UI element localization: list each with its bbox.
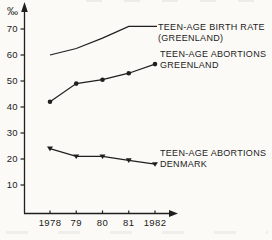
x-tick-label: 1982	[144, 217, 167, 228]
y-tick-label: 20	[7, 153, 18, 164]
series-label-line: GREENLAND	[160, 60, 266, 71]
x-tick-label: 80	[97, 217, 108, 228]
series-line-1	[50, 64, 155, 102]
data-point-triangle	[152, 162, 158, 167]
series-label-line: (GREENLAND)	[158, 33, 265, 44]
y-tick-label: 60	[7, 49, 18, 60]
data-point-circle	[126, 71, 131, 76]
series-label-line: TEEN-AGE BIRTH RATE	[158, 22, 265, 33]
x-axis-arrow-icon	[169, 210, 178, 217]
y-tick-label: 40	[7, 101, 18, 112]
y-tick-label: 50	[7, 75, 18, 86]
y-axis-arrow-icon	[21, 2, 28, 12]
y-tick-label: 70	[7, 23, 18, 34]
series-label-abortions-greenland: TEEN-AGE ABORTIONS GREENLAND	[160, 49, 266, 70]
data-point-circle	[74, 81, 79, 86]
series-label-line: TEEN-AGE ABORTIONS	[160, 148, 266, 159]
series-line-0	[50, 26, 157, 55]
data-point-circle	[100, 77, 105, 82]
y-axis-unit-label: ‰	[7, 5, 19, 17]
data-point-circle	[48, 100, 53, 105]
scanned-chart-figure: 1020304050607019787980811982 ‰ TEEN-AGE …	[0, 0, 272, 240]
x-tick-label: 81	[123, 217, 134, 228]
x-tick-label: 79	[71, 217, 82, 228]
data-point-circle	[153, 62, 158, 67]
series-label-birth-rate-greenland: TEEN-AGE BIRTH RATE (GREENLAND)	[158, 22, 265, 43]
y-tick-label: 30	[7, 127, 18, 138]
x-tick-label: 1978	[39, 217, 62, 228]
series-label-line: TEEN-AGE ABORTIONS	[160, 49, 266, 60]
series-label-abortions-denmark: TEEN-AGE ABORTIONS DENMARK	[160, 148, 266, 169]
y-tick-label: 10	[7, 179, 18, 190]
series-label-line: DENMARK	[160, 159, 266, 170]
